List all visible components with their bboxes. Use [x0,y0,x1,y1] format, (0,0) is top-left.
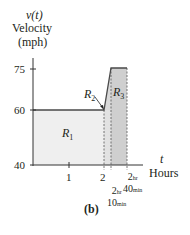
region-label-r2: R2 [84,88,95,103]
x-axis-title: Hours [149,167,178,179]
x-axis-variable: t [160,153,163,165]
y-axis-function: v(t) [26,9,43,21]
figure-caption: (b) [84,203,99,215]
y-tick-label-40: 40 [14,160,25,171]
region-label-r1: R1 [62,127,73,142]
y-tick-label-60: 60 [14,105,25,116]
r2-arrowhead [100,105,104,110]
x-tick-label-2h40: 2hr 40min [123,172,142,194]
y-tick-label-75: 75 [14,64,25,75]
x-tick-label-1: 1 [66,172,72,183]
x-tick-label-2: 2 [100,172,106,183]
y-axis-title: Velocity [12,22,52,34]
region-r2 [104,110,111,165]
y-axis-units: (mph) [18,36,47,48]
region-label-r3: R3 [113,86,124,101]
region-r3 [111,68,127,165]
